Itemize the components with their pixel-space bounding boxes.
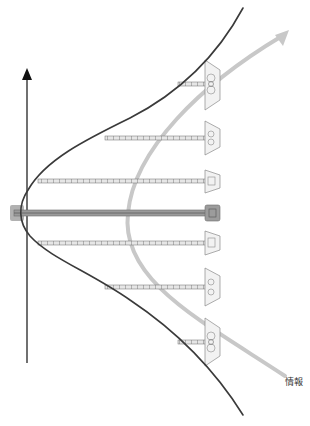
rod-center [10, 205, 220, 221]
center-right-block [205, 205, 220, 221]
info-label: 情報 [285, 375, 303, 388]
rod-bottom-2 [105, 268, 220, 306]
axis-arrow-up-icon [22, 68, 32, 80]
receiver-icon [205, 121, 220, 155]
receiver-icon [205, 318, 220, 366]
diagram-canvas [0, 0, 310, 426]
rod-top-2 [105, 121, 220, 155]
receiver-icon [205, 231, 220, 255]
receiver-icon [205, 60, 220, 110]
receiver-icon [205, 170, 220, 193]
rod-top-3 [38, 170, 220, 193]
receiver-icon [205, 268, 220, 306]
